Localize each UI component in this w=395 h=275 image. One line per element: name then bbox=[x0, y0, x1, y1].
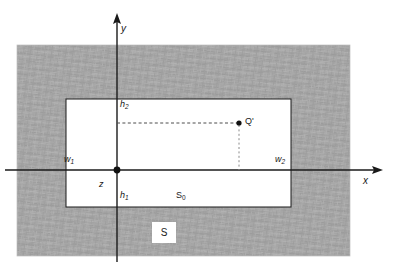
y-axis-label: y bbox=[121, 24, 126, 34]
label-w1-base: w bbox=[64, 154, 71, 164]
label-s0-sub: 0 bbox=[182, 194, 186, 201]
label-h1: h1 bbox=[120, 191, 129, 200]
label-s-box: S bbox=[152, 222, 176, 243]
label-q-prime: Q' bbox=[245, 117, 254, 126]
label-w2: w2 bbox=[275, 155, 285, 164]
label-h2-sub: 2 bbox=[125, 103, 129, 110]
label-s0: S0 bbox=[176, 191, 186, 200]
label-h2: h2 bbox=[120, 100, 129, 109]
label-w1: w1 bbox=[64, 155, 74, 164]
diagram-canvas: y x h2 h1 w1 w2 z S0 Q' S bbox=[0, 0, 395, 275]
diagram-vector-layer bbox=[0, 0, 395, 275]
origin-point-marker bbox=[114, 167, 121, 174]
label-h1-sub: 1 bbox=[125, 194, 129, 201]
label-w2-base: w bbox=[275, 154, 282, 164]
q-prime-point-marker bbox=[236, 120, 241, 125]
label-w2-sub: 2 bbox=[282, 158, 286, 165]
label-w1-sub: 1 bbox=[71, 158, 75, 165]
x-axis-label: x bbox=[363, 176, 368, 186]
label-origin-z: z bbox=[99, 180, 104, 189]
